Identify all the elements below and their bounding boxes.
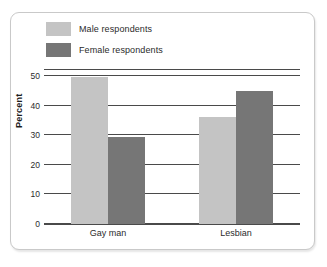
legend-swatch-female bbox=[46, 43, 71, 57]
x-tick-label: Gay man bbox=[44, 228, 172, 238]
bar-group bbox=[44, 76, 172, 224]
bar-male[interactable] bbox=[71, 77, 108, 224]
x-tick-label: Lesbian bbox=[172, 228, 300, 238]
y-tick-label: 50 bbox=[31, 71, 40, 81]
y-tick-label: 40 bbox=[31, 101, 40, 111]
y-tick-label: 0 bbox=[35, 219, 40, 229]
legend-item-female: Female respondents bbox=[46, 41, 246, 59]
legend-label-male: Male respondents bbox=[79, 24, 152, 34]
legend-label-female: Female respondents bbox=[79, 45, 163, 55]
y-tick-label: 20 bbox=[31, 160, 40, 170]
chart-legend: Male respondents Female respondents bbox=[46, 20, 246, 62]
plot-area: 01020304050 bbox=[44, 76, 300, 224]
bar-female[interactable] bbox=[236, 91, 273, 224]
legend-swatch-male bbox=[46, 22, 71, 36]
y-tick-label: 10 bbox=[31, 189, 40, 199]
bar-female[interactable] bbox=[108, 137, 145, 224]
x-axis-labels: Gay manLesbian bbox=[44, 228, 300, 238]
y-tick-label: 30 bbox=[31, 130, 40, 140]
bar-group bbox=[172, 76, 300, 224]
axis-top-rule bbox=[44, 69, 300, 70]
legend-item-male: Male respondents bbox=[46, 20, 246, 38]
bar-male[interactable] bbox=[199, 117, 236, 224]
y-axis-title: Percent bbox=[14, 94, 24, 128]
axis-baseline bbox=[44, 224, 300, 225]
bars-layer bbox=[44, 76, 300, 224]
